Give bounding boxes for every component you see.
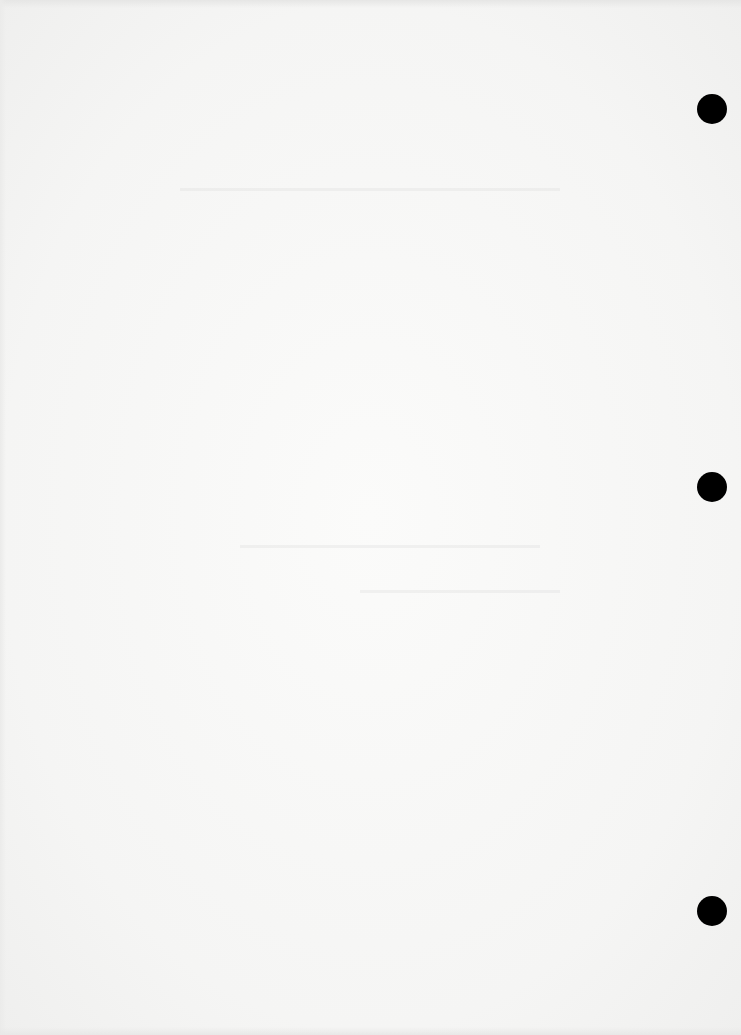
- page-edge-top: [0, 0, 741, 8]
- bleed-through-line: [360, 590, 560, 593]
- page-edge-left: [0, 0, 6, 1035]
- bleed-through-line: [240, 545, 540, 548]
- page-edge-bottom: [0, 1027, 741, 1035]
- hole-punch-bottom: [697, 896, 727, 926]
- bleed-through-line: [180, 188, 560, 191]
- hole-punch-middle: [697, 472, 727, 502]
- scanned-page: [0, 0, 741, 1035]
- hole-punch-top: [697, 94, 727, 124]
